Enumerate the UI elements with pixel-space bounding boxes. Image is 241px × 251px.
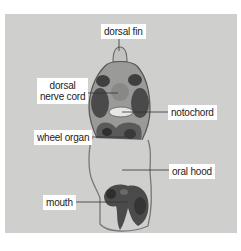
muscle-block-left: [91, 88, 109, 118]
label-wheel-organ: wheel organ: [34, 130, 92, 145]
muscle-block-right: [131, 88, 149, 118]
label-dorsal-nerve-cord-line2: nerve cord: [40, 91, 85, 102]
label-notochord: notochord: [168, 105, 217, 120]
label-wheel-organ-text: wheel organ: [37, 132, 89, 143]
label-oral-hood-text: oral hood: [172, 166, 212, 177]
notochord-shape: [109, 107, 133, 117]
label-mouth-text: mouth: [46, 197, 73, 208]
dorsal-fin-shape: [113, 47, 127, 62]
label-mouth: mouth: [43, 195, 76, 210]
label-notochord-text: notochord: [171, 107, 214, 118]
label-dorsal-nerve-cord: dorsal nerve cord: [37, 78, 88, 104]
label-dorsal-fin-text: dorsal fin: [104, 26, 143, 37]
label-dorsal-fin: dorsal fin: [101, 24, 146, 39]
nerve-cord-shape: [111, 83, 129, 101]
muscle-block-left-top: [96, 75, 110, 87]
label-dorsal-nerve-cord-line1: dorsal: [40, 80, 85, 91]
muscle-block-right-top: [128, 74, 142, 86]
label-oral-hood: oral hood: [169, 164, 215, 179]
